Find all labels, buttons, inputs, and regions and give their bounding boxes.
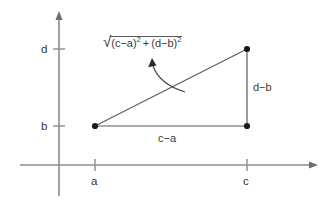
- distance-formula: √ (c−a)2+(d−b)2: [103, 36, 182, 49]
- radical-sign-icon: √: [103, 37, 111, 47]
- vertex-point-c-d: [244, 46, 250, 52]
- vertical-leg-label: d−b: [253, 82, 272, 93]
- hypotenuse-line: [95, 49, 247, 126]
- formula-term-two: (d−b): [151, 37, 177, 49]
- y-tick-label-d: d: [41, 44, 47, 56]
- x-axis-arrowhead-icon: [309, 161, 318, 168]
- x-tick-label-c: c: [243, 176, 249, 188]
- formula-term-one: (c−a): [111, 37, 136, 49]
- horizontal-leg-label: c−a: [158, 133, 176, 144]
- distance-formula-figure: d b a c c−a d−b √ (c−a)2+(d−b)2: [0, 0, 335, 207]
- vertex-point-c-b: [244, 123, 250, 129]
- x-tick-label-a: a: [91, 176, 97, 188]
- y-axis-arrowhead-icon: [55, 11, 62, 20]
- y-tick-label-b: b: [41, 121, 47, 133]
- formula-operator: +: [141, 37, 151, 49]
- figure-canvas: [0, 0, 335, 207]
- formula-term-two-exponent: 2: [177, 35, 181, 44]
- vertex-point-a-b: [92, 123, 98, 129]
- radicand: (c−a)2+(d−b)2: [110, 36, 182, 49]
- annotation-arrowhead-icon: [148, 58, 156, 67]
